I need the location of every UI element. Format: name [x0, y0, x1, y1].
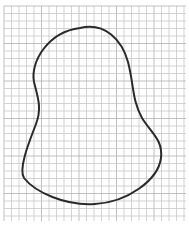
graph-paper — [0, 0, 189, 233]
grid-drawing — [0, 0, 189, 233]
grid-lines — [4, 6, 186, 221]
closed-curve — [22, 27, 161, 204]
